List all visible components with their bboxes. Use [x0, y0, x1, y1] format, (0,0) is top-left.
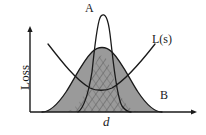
y-axis-label: Loss [18, 65, 31, 90]
x-axis-label: d [103, 115, 110, 128]
curve-label-b: B [160, 89, 168, 101]
curve-label-ls: L(s) [152, 33, 172, 45]
loss-landscape-figure: Loss d A B L(s) [0, 0, 206, 135]
curve-label-a: A [85, 2, 94, 14]
